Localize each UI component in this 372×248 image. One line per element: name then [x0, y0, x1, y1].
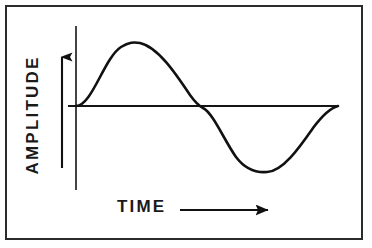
sine-wave-figure: AMPLITUDE TIME: [0, 0, 372, 248]
x-axis-label: TIME: [117, 197, 166, 217]
y-axis-label: AMPLITUDE: [22, 35, 44, 195]
sine-wave-curve: [76, 42, 338, 172]
plot-canvas: [0, 0, 372, 248]
